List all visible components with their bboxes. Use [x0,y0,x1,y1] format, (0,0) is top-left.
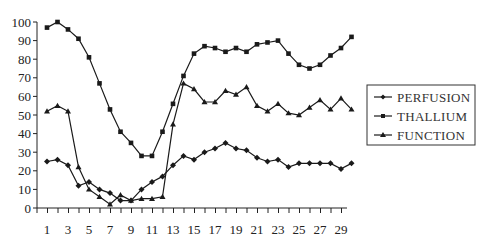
x-tick-label: 1 [44,222,51,237]
x-tick-label: 17 [209,222,223,237]
square-marker-icon [286,51,291,56]
x-tick-label: 9 [128,222,135,237]
x-tick-label: 3 [65,222,72,237]
diamond-marker-icon [223,140,229,146]
x-tick-label: 13 [167,222,180,237]
y-axis: 0102030405060708090100 [12,15,38,216]
diamond-marker-icon [55,157,61,163]
triangle-marker-icon [191,86,197,91]
square-marker-icon [244,49,249,54]
y-tick-label: 90 [18,33,31,48]
y-tick-label: 70 [18,70,31,85]
square-marker-icon [129,141,134,146]
y-tick-label: 10 [18,182,31,197]
square-marker-icon [234,46,239,51]
square-marker-icon [118,129,123,134]
triangle-marker-icon [44,108,50,113]
x-tick-label: 11 [146,222,159,237]
square-marker-icon [55,20,60,25]
square-marker-icon [276,38,281,43]
square-marker-icon [171,102,176,107]
diamond-marker-icon [265,159,271,165]
diamond-marker-icon [349,160,355,166]
square-marker-icon [192,51,197,56]
series-layer [44,20,355,207]
triangle-marker-icon [223,88,229,93]
series-line [47,83,352,204]
diamond-marker-icon [307,160,313,166]
y-tick-label: 80 [18,52,31,67]
square-marker-icon [160,129,165,134]
series-thallium [45,20,354,159]
square-marker-icon [339,46,344,51]
diamond-marker-icon [317,160,323,166]
x-tick-label: 23 [272,222,285,237]
square-marker-icon [45,25,50,30]
x-axis: 1357911131517192123252729 [37,208,348,237]
triangle-marker-icon [307,105,313,110]
series-line [47,22,352,156]
series-perfusion [44,140,355,204]
triangle-marker-icon [160,194,166,199]
triangle-marker-icon [65,108,71,113]
triangle-marker-icon [55,103,61,108]
diamond-marker-icon [296,160,302,166]
legend: PERFUSION THALLIUM FUNCTION [367,85,475,145]
line-chart: 0102030405060708090100 13579111315171921… [0,0,501,246]
square-marker-icon [66,27,71,32]
triangle-marker-icon [317,97,323,102]
x-tick-label: 7 [107,222,114,237]
square-marker-icon [213,46,218,51]
x-tick-label: 27 [314,222,328,237]
square-marker-icon [381,114,385,118]
triangle-marker-icon [254,103,260,108]
diamond-marker-icon [338,166,344,172]
square-marker-icon [181,74,186,79]
diamond-marker-icon [212,145,218,151]
x-tick-label: 25 [293,222,306,237]
diamond-marker-icon [76,183,82,189]
diamond-marker-icon [65,162,71,168]
x-tick-label: 19 [230,222,243,237]
triangle-marker-icon [338,95,344,100]
y-tick-label: 20 [18,163,31,178]
square-marker-icon [87,55,92,60]
y-tick-label: 50 [18,108,31,123]
legend-label: FUNCTION [397,128,465,143]
y-tick-label: 60 [18,89,31,104]
diamond-marker-icon [44,159,50,165]
triangle-marker-icon [244,84,250,89]
square-marker-icon [108,107,113,112]
y-tick-label: 0 [25,201,32,216]
y-tick-label: 30 [18,145,31,160]
triangle-marker-icon [265,108,271,113]
x-tick-label: 29 [335,222,348,237]
legend-label: THALLIUM [397,109,467,124]
triangle-marker-icon [170,121,176,126]
square-marker-icon [297,62,302,67]
x-tick-label: 21 [251,222,264,237]
square-marker-icon [76,36,81,41]
triangle-marker-icon [76,164,82,169]
diamond-marker-icon [328,160,334,166]
triangle-marker-icon [86,186,92,191]
square-marker-icon [307,66,312,71]
square-marker-icon [223,49,228,54]
square-marker-icon [349,35,354,40]
series-function [44,80,355,206]
square-marker-icon [265,40,270,45]
square-marker-icon [150,154,155,159]
square-marker-icon [328,53,333,58]
square-marker-icon [202,44,207,49]
x-tick-label: 15 [188,222,201,237]
square-marker-icon [139,154,144,159]
legend-label: PERFUSION [397,90,471,105]
square-marker-icon [255,42,260,47]
y-tick-label: 40 [18,126,31,141]
triangle-marker-icon [275,101,281,106]
square-marker-icon [318,62,323,67]
x-tick-label: 5 [86,222,93,237]
y-tick-label: 100 [12,15,32,30]
square-marker-icon [97,81,102,86]
diamond-marker-icon [233,145,239,151]
